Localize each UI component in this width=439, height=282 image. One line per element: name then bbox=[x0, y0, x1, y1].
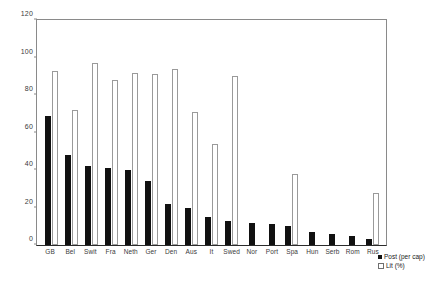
bar-group bbox=[41, 20, 61, 245]
bar-series-container bbox=[37, 20, 386, 245]
plot-area: 020406080100120 bbox=[36, 19, 387, 246]
bar-lit bbox=[232, 76, 238, 245]
bar-chart: 020406080100120 GBBelSwitFraNethGerDenAu… bbox=[0, 0, 439, 282]
x-axis-tick-label: Neth bbox=[121, 248, 141, 255]
y-axis-tick-label: 60 bbox=[25, 122, 37, 129]
legend-swatch-filled-square-icon bbox=[378, 255, 382, 259]
bar-lit bbox=[132, 73, 138, 246]
bar-post bbox=[249, 223, 255, 246]
x-axis: GBBelSwitFraNethGerDenAusItSwedNorPortSp… bbox=[36, 248, 387, 255]
x-axis-tick-label: It bbox=[201, 248, 221, 255]
bar-group bbox=[322, 20, 342, 245]
bar-lit bbox=[172, 69, 178, 245]
bar-post bbox=[85, 166, 91, 245]
x-axis-tick-label: GB bbox=[40, 248, 60, 255]
bar-lit bbox=[212, 144, 218, 245]
x-axis-tick-label: Ger bbox=[141, 248, 161, 255]
bar-post bbox=[329, 234, 335, 245]
bar-lit bbox=[152, 74, 158, 245]
bar-lit bbox=[112, 80, 118, 245]
bar-post bbox=[349, 236, 355, 245]
bar-post bbox=[125, 170, 131, 245]
bar-group bbox=[242, 20, 262, 245]
x-axis-tick-label: Swed bbox=[222, 248, 242, 255]
bar-post bbox=[269, 224, 275, 245]
bar-group bbox=[161, 20, 181, 245]
x-axis-tick-label: Rom bbox=[343, 248, 363, 255]
bar-lit bbox=[192, 112, 198, 245]
bar-group bbox=[81, 20, 101, 245]
bar-lit bbox=[292, 174, 298, 245]
x-axis-tick-label: Swit bbox=[80, 248, 100, 255]
bar-lit bbox=[373, 193, 379, 246]
bar-group bbox=[121, 20, 141, 245]
y-axis-tick-label: 20 bbox=[25, 197, 37, 204]
x-axis-tick-label: Den bbox=[161, 248, 181, 255]
chart-legend: Post (per cap)Lit (%) bbox=[378, 252, 425, 270]
x-axis-tick-label: Hun bbox=[302, 248, 322, 255]
y-axis-tick-label: 100 bbox=[21, 47, 37, 54]
x-axis-tick-label: Bel bbox=[60, 248, 80, 255]
bar-post bbox=[105, 168, 111, 245]
bar-group bbox=[362, 20, 382, 245]
bar-group bbox=[101, 20, 121, 245]
bar-post bbox=[185, 208, 191, 245]
bar-group bbox=[302, 20, 322, 245]
bar-post bbox=[225, 221, 231, 245]
y-axis-tick-label: 40 bbox=[25, 160, 37, 167]
bar-post bbox=[205, 217, 211, 245]
bar-post bbox=[45, 116, 51, 245]
x-axis-tick-label: Aus bbox=[181, 248, 201, 255]
bar-lit bbox=[92, 63, 98, 245]
legend-item: Lit (%) bbox=[378, 261, 425, 270]
y-axis-tick-label: 120 bbox=[21, 10, 37, 17]
legend-item: Post (per cap) bbox=[378, 252, 425, 261]
bar-post bbox=[65, 155, 71, 245]
bar-group bbox=[342, 20, 362, 245]
bar-lit bbox=[72, 110, 78, 245]
x-axis-tick-label: Nor bbox=[242, 248, 262, 255]
legend-label: Post (per cap) bbox=[384, 252, 425, 261]
bar-group bbox=[282, 20, 302, 245]
x-axis-tick-label: Port bbox=[262, 248, 282, 255]
bar-post bbox=[366, 239, 372, 245]
bar-group bbox=[202, 20, 222, 245]
bar-group bbox=[61, 20, 81, 245]
y-axis-tick-label: 0 bbox=[29, 235, 37, 242]
bar-post bbox=[285, 226, 291, 245]
bar-post bbox=[309, 232, 315, 245]
x-axis-tick-label: Serb bbox=[322, 248, 342, 255]
bar-group bbox=[262, 20, 282, 245]
bar-lit bbox=[52, 71, 58, 245]
bar-post bbox=[165, 204, 171, 245]
legend-label: Lit (%) bbox=[386, 261, 405, 270]
x-axis-tick-label: Spa bbox=[282, 248, 302, 255]
bar-post bbox=[145, 181, 151, 245]
x-axis-tick-label: Fra bbox=[101, 248, 121, 255]
legend-swatch-open-square-icon bbox=[378, 263, 384, 269]
y-axis-tick-label: 80 bbox=[25, 85, 37, 92]
bar-group bbox=[141, 20, 161, 245]
bar-group bbox=[181, 20, 201, 245]
bar-group bbox=[222, 20, 242, 245]
